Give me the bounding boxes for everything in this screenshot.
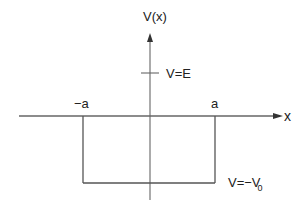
x-axis-arrowhead — [273, 113, 283, 119]
well-depth-main: V=−V — [228, 175, 261, 190]
well-depth-subscript: 0 — [258, 183, 263, 193]
energy-level-label: V=E — [166, 66, 191, 81]
y-axis-label: V(x) — [143, 9, 167, 24]
right-edge-label: a — [211, 96, 219, 111]
y-axis-arrowhead — [147, 33, 153, 42]
x-axis-label: x — [284, 108, 291, 124]
potential-well-diagram: V(x) x V=E −a a V=−V0 — [0, 0, 307, 208]
left-edge-label: −a — [74, 96, 90, 111]
well-depth-label: V=−V0 — [228, 175, 263, 193]
